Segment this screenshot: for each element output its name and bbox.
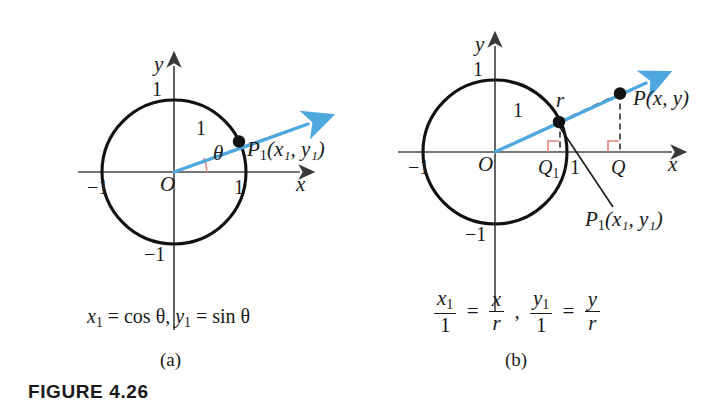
frac0-num-sub: 1 [446,296,453,312]
panel-b-p1-coords: (x₁, y₁) [605,207,663,231]
figure-caption: FIGURE 4.26 [28,381,149,403]
panel-b-fraction-y1-over-1: y1 1 [530,288,552,336]
panel-a-graphic [78,66,308,330]
panel-b-r-segment-label: r [556,88,564,113]
panel-b-point-p1-label: P1(x₁, y₁) [585,207,663,234]
panel-b-point-p-label: P(x, y) [633,86,689,111]
panel-a-ytick-negative-one: −1 [144,243,165,266]
panel-b-right-angle-q1 [548,141,559,152]
panel-a-equation: x1 = cos θ, y1 = sin θ [87,305,250,331]
panel-b-unit-segment-label: 1 [513,99,523,122]
panel-b-graphic [398,46,672,312]
panel-b-tag: (b) [505,349,527,371]
panel-b-y-axis-label: y [475,32,484,57]
panel-a-angle-theta-label: θ [213,141,223,166]
panel-a-eq-sin: = sin θ [196,305,250,327]
panel-a-eq-x-sub: 1 [96,315,103,330]
frac0-num-var: x [437,286,446,310]
panel-b-p1-name: P [585,207,598,231]
frac1-den: r [489,313,504,334]
frac2-num-sub: 1 [542,296,549,312]
panel-a-y-axis-label: y [154,52,163,77]
panel-b-fraction-x1-over-1: x1 1 [434,288,456,336]
panel-b-ytick-positive-one: 1 [473,58,483,81]
panel-a-x-axis-label: x [296,172,305,197]
panel-b-foot-q-label: Q [611,156,625,179]
panel-b-fraction-x-over-r: x r [489,289,504,335]
panel-b-right-angle-q [608,141,619,152]
frac1-num-var: x [489,289,504,310]
panel-b-x-axis-label: x [668,152,677,177]
panel-b-p1-subscript: 1 [598,217,605,233]
panel-a-point-p1-label: P1(x₁, y₁) [247,137,325,164]
panel-a-eq-y: y [175,305,184,327]
panel-a-tag: (a) [160,349,181,371]
panel-a-p1-coords: (x₁, y₁) [267,137,325,161]
panel-b-q1-subscript: 1 [552,166,559,181]
panel-a-xtick-positive-one: 1 [234,176,244,199]
panel-b-equation: x1 1 = x r , y1 1 = y r [434,288,600,336]
panel-a-point-p1 [233,135,245,147]
panel-a-radius-length-label: 1 [196,117,206,140]
panel-a-xtick-negative-one: −1 [87,176,108,199]
frac0-den: 1 [434,315,456,336]
panel-b-origin-label: O [478,152,493,177]
frac3-num-var: y [585,289,600,310]
frac3-den: r [585,313,600,334]
panel-a-eq-y-sub: 1 [184,315,191,330]
panel-b-ytick-negative-one: −1 [465,223,486,246]
panel-a-origin-label: O [160,172,175,197]
panel-b-q1-name: Q [538,156,552,178]
panel-a-ytick-positive-one: 1 [152,78,162,101]
panel-b-point-p [614,87,626,99]
panel-a-p1-name: P [247,137,260,161]
frac2-num-var: y [533,286,542,310]
panel-b-equals-2: = [558,299,580,324]
panel-a-eq-x: x [87,305,96,327]
panel-b-foot-q1-label: Q1 [538,156,559,182]
frac2-den: 1 [530,315,552,336]
panel-a-eq-cos: = cos θ, [108,305,171,327]
panel-b-xtick-positive-one: 1 [570,156,580,179]
panel-b-point-p1 [553,116,565,128]
panel-b-fraction-y-over-r: y r [585,289,600,335]
panel-b-xtick-negative-one: −1 [408,156,429,179]
panel-b-comma: , [509,299,524,324]
panel-a-p1-subscript: 1 [260,147,267,163]
panel-b-equals-1: = [462,299,484,324]
